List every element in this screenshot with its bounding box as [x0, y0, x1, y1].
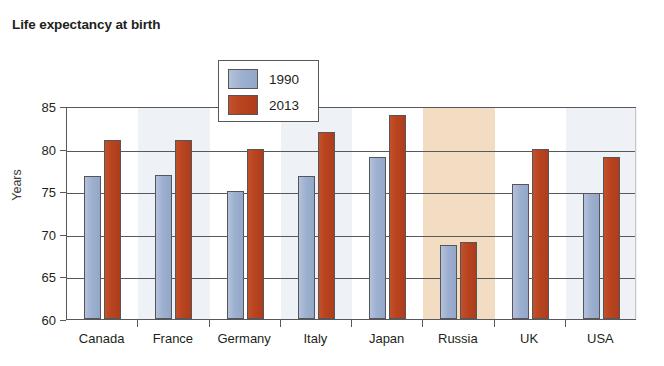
y-tick-mark — [60, 235, 66, 236]
chart-title: Life expectancy at birth — [12, 17, 160, 32]
y-tick-label: 85 — [0, 100, 66, 115]
y-tick-mark — [60, 107, 66, 108]
bar-germany-1990 — [227, 191, 244, 319]
bar-france-2013 — [175, 140, 192, 319]
x-category-label-germany: Germany — [217, 331, 270, 346]
chart-legend: 1990 2013 — [218, 60, 319, 122]
y-tick-label: 65 — [0, 270, 66, 285]
x-tick-mark — [422, 320, 423, 327]
x-category-label-france: France — [153, 331, 193, 346]
x-tick-mark — [137, 320, 138, 327]
bar-italy-1990 — [298, 176, 315, 319]
x-category-label-canada: Canada — [79, 331, 125, 346]
y-tick-label: 60 — [0, 313, 66, 328]
legend-item-2013: 2013 — [228, 95, 299, 115]
x-category-label-italy: Italy — [303, 331, 327, 346]
legend-label-2013: 2013 — [269, 98, 299, 113]
gridline — [67, 151, 635, 152]
y-tick-mark — [60, 150, 66, 151]
y-tick-label: 80 — [0, 142, 66, 157]
category-band — [566, 108, 637, 319]
legend-label-1990: 1990 — [269, 72, 299, 87]
y-tick-mark — [60, 320, 66, 321]
y-tick-mark — [60, 277, 66, 278]
bar-japan-1990 — [369, 157, 386, 319]
bar-russia-1990 — [440, 245, 457, 319]
y-tick-label: 75 — [0, 185, 66, 200]
category-highlight-band — [423, 108, 494, 319]
y-tick-mark — [60, 192, 66, 193]
bar-germany-2013 — [247, 149, 264, 319]
x-category-label-usa: USA — [587, 331, 614, 346]
bar-canada-2013 — [104, 140, 121, 319]
y-tick-label: 70 — [0, 227, 66, 242]
bar-italy-2013 — [318, 132, 335, 319]
bar-usa-2013 — [603, 157, 620, 319]
bar-uk-1990 — [512, 184, 529, 319]
legend-swatch-2013-icon — [228, 95, 258, 115]
bar-russia-2013 — [460, 242, 477, 319]
bar-usa-1990 — [583, 193, 600, 319]
x-tick-mark — [565, 320, 566, 327]
bar-canada-1990 — [84, 176, 101, 319]
category-band — [138, 108, 209, 319]
plot-area — [66, 107, 636, 320]
x-category-label-uk: UK — [520, 331, 538, 346]
x-category-label-japan: Japan — [369, 331, 404, 346]
x-category-label-russia: Russia — [438, 331, 478, 346]
legend-item-1990: 1990 — [228, 69, 299, 89]
gridline — [67, 193, 635, 194]
x-tick-mark — [494, 320, 495, 327]
gridline — [67, 278, 635, 279]
x-tick-mark — [280, 320, 281, 327]
category-band — [281, 108, 352, 319]
legend-swatch-1990-icon — [228, 69, 258, 89]
x-tick-mark — [351, 320, 352, 327]
bar-japan-2013 — [389, 115, 406, 319]
bar-uk-2013 — [532, 149, 549, 319]
gridline — [67, 236, 635, 237]
x-tick-mark — [209, 320, 210, 327]
bar-france-1990 — [155, 175, 172, 319]
